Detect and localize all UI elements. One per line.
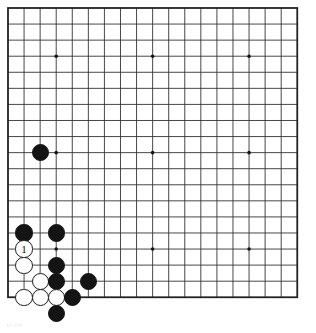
diagram-caption: ti-tit xyxy=(7,322,23,328)
go-board-grid xyxy=(0,0,316,320)
star-point-icon xyxy=(247,54,251,58)
star-point-icon xyxy=(151,151,155,155)
black-stone[interactable] xyxy=(48,305,65,322)
white-stone[interactable] xyxy=(15,289,32,306)
star-point-icon xyxy=(54,54,58,58)
black-stone[interactable] xyxy=(48,257,65,274)
white-stone[interactable]: 1 xyxy=(15,240,32,257)
star-point-icon xyxy=(151,247,155,251)
star-point-icon xyxy=(247,247,251,251)
go-diagram-figure: 1 ti-tit xyxy=(0,0,316,333)
black-stone[interactable] xyxy=(64,289,81,306)
star-point-icon xyxy=(54,151,58,155)
white-stone[interactable] xyxy=(32,289,49,306)
star-point-icon xyxy=(247,151,251,155)
go-board[interactable] xyxy=(0,0,316,320)
black-stone[interactable] xyxy=(48,273,65,290)
move-number-label: 1 xyxy=(16,241,31,256)
black-stone[interactable] xyxy=(80,273,97,290)
white-stone[interactable] xyxy=(48,289,65,306)
white-stone[interactable] xyxy=(15,257,32,274)
black-stone[interactable] xyxy=(32,144,49,161)
star-point-icon xyxy=(151,54,155,58)
black-stone[interactable] xyxy=(48,224,65,241)
star-point-icon xyxy=(54,247,58,251)
white-stone[interactable] xyxy=(32,273,49,290)
black-stone[interactable] xyxy=(15,224,32,241)
